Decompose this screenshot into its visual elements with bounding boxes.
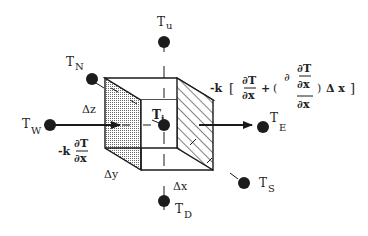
node-east [257,121,269,133]
dimension-dy: Δy [104,168,119,181]
flux-out-term1-denominator: ∂x [242,89,255,102]
node-east-label: TE [270,111,286,133]
control-volume-diagram: Tu TN Ti TW TE TS TD Δz Δy Δx -k [0,0,368,236]
flux-out-plus: + [261,82,270,95]
south-connector [230,173,238,179]
node-west [44,119,56,131]
node-up-label: Tu [157,15,173,31]
dimension-dx: Δx [173,180,188,193]
flux-in-expression: -k ∂T ∂x [58,137,89,165]
node-south [238,177,250,189]
flux-out-inner-numerator: ∂T [297,62,312,75]
flux-out-delta: Δ x [326,82,345,95]
flux-out-term1-numerator: ∂T [242,74,257,87]
node-up [158,36,170,48]
node-north-label: TN [66,55,84,72]
node-down [158,195,170,207]
flux-out-close-paren: ) [317,82,321,95]
flux-out-expression: -k [ ∂T ∂x + ( ∂ ∂T ∂x ∂x ) Δ x ] [210,62,355,111]
node-south-label: TS [259,176,275,194]
flux-out-outer-denominator: ∂x [297,98,310,111]
flux-out-open-bracket: [ [229,81,234,96]
flux-in-numerator: ∂T [74,137,89,150]
flux-out-partial: ∂ [284,71,290,84]
node-west-label: TW [22,117,42,136]
flux-out-prefix: -k [210,82,223,95]
flux-out-open-paren: ( [273,82,277,95]
flux-out-inner-denominator: ∂x [297,78,310,91]
flux-in-denominator: ∂x [74,152,87,165]
flux-out-close-bracket: ] [350,81,355,96]
dimension-dz: Δz [82,103,96,116]
node-down-label: TD [175,202,192,220]
flux-in-prefix: -k [58,145,71,158]
north-connector [96,83,104,88]
